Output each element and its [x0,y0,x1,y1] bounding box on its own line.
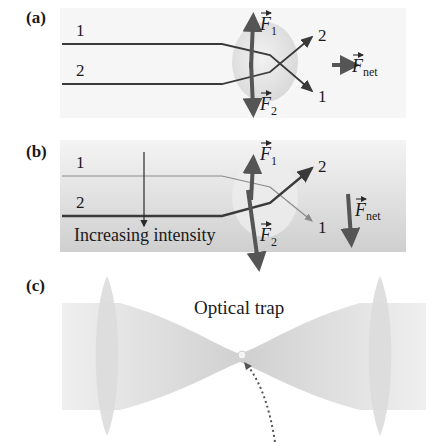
svg-text:2: 2 [271,104,277,118]
panel-c: Optical trap [62,276,426,442]
ray-1-out-label-b: 1 [318,218,327,237]
panel-a: 1 2 2 1 F 1 F 2 F net [60,8,406,118]
ray-2-out-label-b: 2 [318,157,327,176]
force-1-arrow-b [251,164,253,200]
particle-path-dotted [248,366,275,442]
svg-text:1: 1 [271,24,277,38]
force-1-arrow-a [251,22,253,68]
sphere-a [232,22,298,102]
optical-trap-diagram: 1 2 2 1 F 1 F 2 F net 1 [0,0,442,442]
ray-1-in-label-a: 1 [76,21,85,40]
right-lens [369,276,392,436]
svg-text:net: net [366,209,381,223]
ray-1-out-label-a: 1 [318,87,327,106]
increasing-intensity-label: Increasing intensity [74,225,215,245]
left-lens [96,276,119,436]
svg-text:1: 1 [271,154,277,168]
svg-text:net: net [363,65,378,79]
ray-2-in-label-b: 2 [76,193,85,212]
trapped-particle [238,351,246,359]
panel-b: 1 2 2 1 Increasing intensity F 1 F 2 F n… [60,140,406,262]
ray-1-in-label-b: 1 [76,153,85,172]
force-2-arrow-a [251,62,253,108]
ray-2-out-label-a: 2 [318,26,327,45]
ray-2-in-label-a: 2 [76,61,85,80]
optical-trap-title: Optical trap [194,297,284,318]
svg-text:2: 2 [271,235,277,249]
